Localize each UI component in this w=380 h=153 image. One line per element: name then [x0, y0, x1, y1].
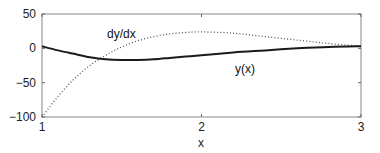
- y-tick-label: −100: [9, 110, 36, 124]
- y-tick-label: 0: [29, 41, 36, 55]
- axis-tick-labels: 123500−50−100: [9, 7, 365, 134]
- y-tick-label: 50: [23, 7, 37, 21]
- yx-label: y(x): [235, 62, 255, 76]
- y-tick-label: −50: [16, 76, 37, 90]
- yx-curve: [42, 46, 361, 60]
- x-tick-label: 2: [198, 120, 205, 134]
- line-chart: 123500−50−100 dy/dx y(x) x: [0, 0, 380, 153]
- dydx-label: dy/dx: [107, 27, 136, 41]
- dydx-curve: [42, 32, 361, 117]
- x-axis-label: x: [198, 136, 204, 150]
- x-tick-label: 3: [358, 120, 365, 134]
- x-tick-label: 1: [39, 120, 46, 134]
